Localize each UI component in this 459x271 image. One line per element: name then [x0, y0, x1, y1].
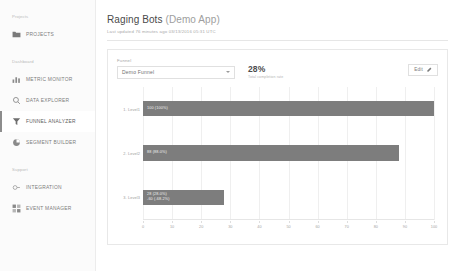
chart-category-label: 1. Level1 — [123, 106, 140, 111]
chart-bar-row[interactable]: 2. Level288 (88.0%) — [143, 145, 434, 161]
funnel-icon — [12, 117, 21, 126]
sidebar-item-label: PROJECTS — [26, 32, 54, 37]
sidebar-item-segment-builder[interactable]: SEGMENT BUILDER — [0, 132, 95, 153]
funnel-chart: 1. Level1100 (100%)2. Level288 (88.0%)3.… — [117, 87, 438, 236]
completion-rate-value: 28% — [248, 64, 283, 74]
x-tick-label: 20 — [199, 225, 203, 229]
sidebar: Projects PROJECTS Dashboard METRIC MONIT… — [0, 0, 96, 271]
sidebar-item-event-manager[interactable]: EVENT MANAGER — [0, 198, 95, 219]
sidebar-item-metric-monitor[interactable]: METRIC MONITOR — [0, 69, 95, 90]
chart-bar-row[interactable]: 3. Level328 (28.0%)-60 (-68.2%) — [143, 190, 434, 206]
sidebar-item-funnel-analyzer[interactable]: FUNNEL ANALYZER — [0, 111, 95, 132]
sidebar-group-label: Projects — [0, 14, 95, 19]
x-tick-label: 50 — [286, 225, 290, 229]
sidebar-item-label: INTEGRATION — [26, 185, 62, 190]
grid-icon — [12, 204, 21, 213]
x-tick-mark — [230, 221, 231, 224]
x-tick-mark — [376, 221, 377, 224]
sidebar-item-label: METRIC MONITOR — [26, 77, 73, 82]
sidebar-item-integration[interactable]: INTEGRATION — [0, 177, 95, 198]
sidebar-item-projects[interactable]: PROJECTS — [0, 24, 95, 45]
funnel-select-value: Demo Funnel — [122, 69, 154, 75]
sidebar-item-data-explorer[interactable]: DATA EXPLORER — [0, 90, 95, 111]
chart-gridline — [434, 87, 435, 220]
header-divider — [107, 40, 448, 41]
sidebar-group-label: Support — [0, 167, 95, 172]
sidebar-group-projects: Projects PROJECTS — [0, 14, 95, 45]
chart-plot-area: 1. Level1100 (100%)2. Level288 (88.0%)3.… — [143, 87, 434, 220]
segment-icon — [12, 138, 21, 147]
main-content: Raging Bots (Demo App) Last updated 76 m… — [96, 0, 459, 271]
x-tick-mark — [172, 221, 173, 224]
x-tick-label: 100 — [431, 225, 437, 229]
chart-category-label: 3. Level3 — [123, 195, 140, 200]
completion-rate-caption: Total completion rate — [248, 75, 283, 79]
funnel-select[interactable]: Demo Funnel — [117, 66, 235, 79]
edit-button[interactable]: Edit — [408, 64, 438, 76]
edit-button-label: Edit — [414, 67, 423, 72]
chart-category-label: 2. Level2 — [123, 151, 140, 156]
x-tick-label: 90 — [403, 225, 407, 229]
x-tick-mark — [143, 221, 144, 224]
page-title: Raging Bots (Demo App) — [107, 14, 448, 25]
x-tick-mark — [405, 221, 406, 224]
x-tick-mark — [347, 221, 348, 224]
x-tick-label: 70 — [345, 225, 349, 229]
funnel-card: Funnel Demo Funnel 28% Total completion … — [107, 49, 448, 245]
completion-rate-block: 28% Total completion rate — [248, 58, 283, 80]
x-tick-mark — [201, 221, 202, 224]
sidebar-item-label: FUNNEL ANALYZER — [26, 119, 76, 124]
chart-bar-row[interactable]: 1. Level1100 (100%) — [143, 101, 434, 117]
x-tick-label: 0 — [142, 225, 144, 229]
bar-chart-icon — [12, 75, 21, 84]
x-tick-mark — [289, 221, 290, 224]
x-tick-mark — [318, 221, 319, 224]
chart-bar-value-label: 88 (88.0%) — [147, 150, 399, 155]
x-tick-label: 40 — [257, 225, 261, 229]
sidebar-group-dashboard: Dashboard METRIC MONITOR DATA EXPLORER F… — [0, 59, 95, 153]
chart-bar[interactable]: 100 (100%) — [143, 101, 434, 117]
x-tick-mark — [259, 221, 260, 224]
page-title-suffix: (Demo App) — [165, 14, 219, 25]
sidebar-group-support: Support INTEGRATION EVENT MANAGER — [0, 167, 95, 219]
chart-bar-delta-label: -60 (-68.2%) — [147, 197, 224, 202]
x-tick-label: 30 — [228, 225, 232, 229]
x-axis-line — [143, 219, 434, 220]
sidebar-group-label: Dashboard — [0, 59, 95, 64]
sidebar-item-label: SEGMENT BUILDER — [26, 140, 76, 145]
last-updated-text: Last updated 76 minutes ago 03/13/2016 0… — [107, 29, 448, 34]
chevron-down-icon — [226, 71, 230, 73]
sidebar-item-label: DATA EXPLORER — [26, 98, 69, 103]
funnel-field-label: Funnel — [117, 58, 235, 63]
pencil-icon — [426, 67, 432, 73]
funnel-select-group: Funnel Demo Funnel — [117, 58, 235, 79]
search-icon — [12, 96, 21, 105]
chart-bar[interactable]: 88 (88.0%) — [143, 145, 399, 161]
x-tick-mark — [434, 221, 435, 224]
x-axis-ticks: 0102030405060708090100 — [143, 221, 434, 233]
x-tick-label: 80 — [374, 225, 378, 229]
page-title-main: Raging Bots — [107, 14, 165, 25]
folder-icon — [12, 30, 21, 39]
x-tick-label: 60 — [315, 225, 319, 229]
link-icon — [12, 183, 21, 192]
chart-bar[interactable]: 28 (28.0%)-60 (-68.2%) — [143, 190, 224, 206]
app-root: Projects PROJECTS Dashboard METRIC MONIT… — [0, 0, 459, 271]
chart-bar-value-label: 100 (100%) — [147, 106, 434, 111]
sidebar-item-label: EVENT MANAGER — [26, 206, 72, 211]
x-tick-label: 10 — [170, 225, 174, 229]
funnel-controls: Funnel Demo Funnel 28% Total completion … — [108, 50, 447, 80]
